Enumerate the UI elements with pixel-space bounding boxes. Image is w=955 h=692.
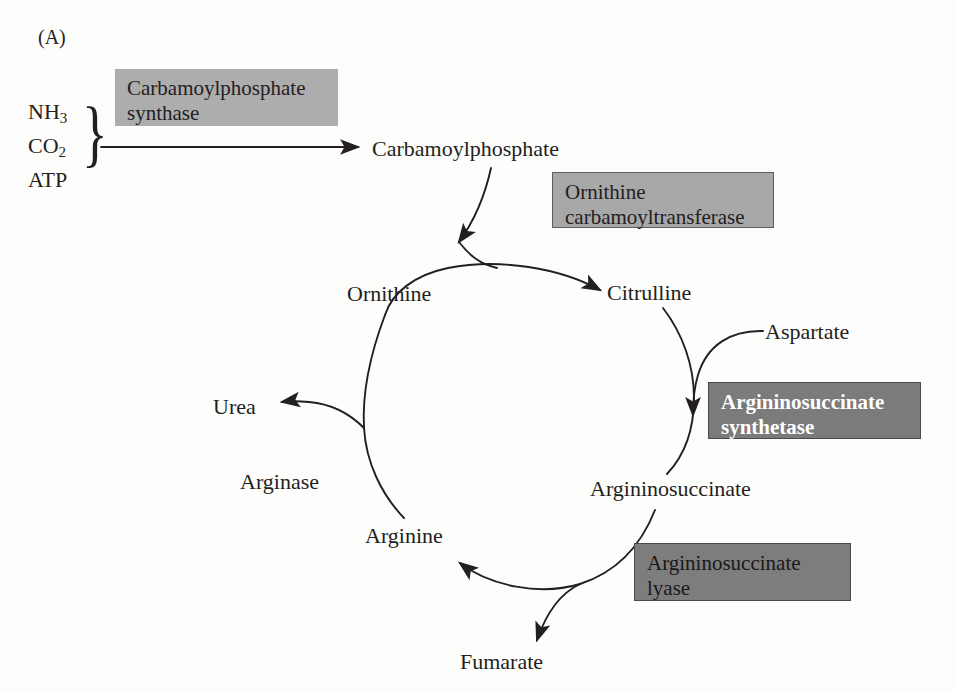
enzyme-line-2: lyase — [647, 576, 838, 601]
enzyme-box-argininosuccinate-synthetase: Argininosuccinate synthetase — [708, 382, 921, 439]
substrate-co2-subscript: 2 — [59, 144, 66, 160]
substrate-nh3: NH3 — [28, 100, 67, 127]
metabolite-aspartate: Aspartate — [765, 320, 849, 344]
metabolite-citrulline: Citrulline — [607, 281, 691, 305]
enzyme-line-2: synthetase — [721, 415, 908, 440]
arc-citrulline-to-argininosuccinate — [663, 308, 694, 398]
metabolite-arginine: Arginine — [365, 524, 443, 548]
enzyme-box-argininosuccinate-lyase: Argininosuccinate lyase — [634, 543, 851, 601]
metabolite-fumarate: Fumarate — [460, 650, 543, 674]
substrate-co2: CO2 — [28, 134, 66, 161]
substrate-atp-formula: ATP — [28, 167, 67, 192]
metabolite-argininosuccinate: Argininosuccinate — [590, 477, 751, 501]
urea-cycle-figure: (A) NH3 CO2 ATP } Carbamoylphosphate syn… — [0, 0, 955, 692]
arrow-carbamoylphosphate-into-cycle — [459, 168, 491, 242]
arc-citrulline-to-argininosuccinate-lower — [667, 398, 694, 474]
substrate-nh3-formula: NH — [28, 99, 60, 124]
panel-letter: (A) — [38, 26, 66, 48]
arc-arginine-to-ornithine-lower — [364, 428, 404, 518]
enzyme-line-2: synthase — [127, 101, 326, 126]
arc-argininosuccinate-to-arginine-left — [460, 563, 580, 589]
substrate-group-brace: } — [82, 96, 108, 170]
metabolite-carbamoylphosphate: Carbamoylphosphate — [372, 137, 559, 161]
arrow-to-urea — [282, 401, 364, 428]
substrate-nh3-subscript: 3 — [60, 110, 67, 126]
metabolite-urea: Urea — [213, 395, 256, 419]
substrate-co2-formula: CO — [28, 133, 59, 158]
enzyme-box-ornithine-carbamoyltransferase: Ornithine carbamoyltransferase — [552, 172, 774, 228]
metabolite-ornithine: Ornithine — [347, 282, 431, 306]
enzyme-line-1: Argininosuccinate — [721, 390, 908, 415]
enzyme-box-carbamoylphosphate-synthase: Carbamoylphosphate synthase — [115, 69, 338, 126]
enzyme-line-2: carbamoyltransferase — [565, 205, 761, 230]
enzyme-line-1: Carbamoylphosphate — [127, 76, 326, 101]
enzyme-line-1: Argininosuccinate — [647, 551, 838, 576]
substrate-atp: ATP — [28, 168, 67, 195]
enzyme-label-arginase: Arginase — [240, 470, 319, 494]
arc-arginine-to-ornithine-upper — [364, 315, 385, 428]
enzyme-line-1: Ornithine — [565, 180, 761, 205]
arrow-to-fumarate — [537, 584, 580, 640]
